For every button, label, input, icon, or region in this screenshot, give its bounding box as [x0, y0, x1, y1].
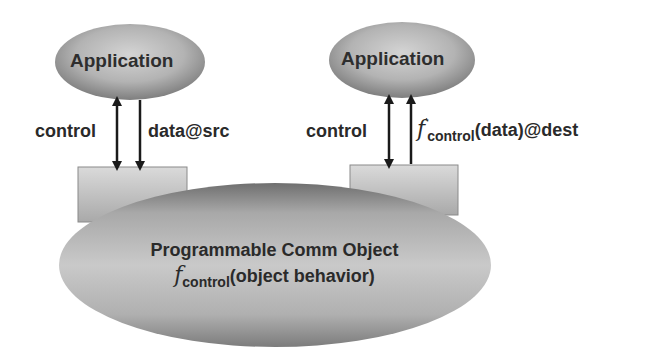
left-control-label: control: [35, 121, 96, 142]
behavior-label: (object behavior): [230, 266, 375, 286]
right-control-label: control: [306, 121, 367, 142]
right-app-label: Application: [341, 48, 444, 70]
comm-object-title: Programmable Comm Object: [112, 240, 437, 261]
control-subscript: control: [427, 128, 474, 144]
function-f-symbol: f: [417, 116, 425, 141]
right-fn-data-label: f′control(data)@dest: [417, 116, 578, 141]
left-app-label: Application: [70, 50, 173, 72]
data-dest-label: (data)@dest: [475, 120, 579, 140]
prime-mark: ′: [425, 116, 427, 128]
control-subscript: control: [182, 274, 229, 290]
comm-object-behavior: fcontrol(object behavior): [112, 262, 437, 287]
left-data-label: data@src: [148, 121, 230, 142]
